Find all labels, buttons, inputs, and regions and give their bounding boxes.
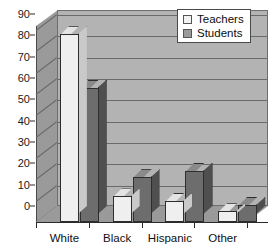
y-axis-tick-label: 10 bbox=[4, 179, 30, 190]
y-axis-tick-mark bbox=[30, 78, 35, 79]
bar-side bbox=[78, 26, 88, 214]
y-axis-tick-label: 50 bbox=[4, 94, 30, 105]
bar-black-teachers bbox=[113, 196, 132, 222]
legend-item-students: Students bbox=[183, 27, 244, 39]
y-axis-tick-mark bbox=[30, 120, 35, 121]
y-axis-tick-label: 70 bbox=[4, 51, 30, 62]
y-axis-tick-label: 60 bbox=[4, 73, 30, 84]
bar-face bbox=[218, 211, 237, 222]
y-axis-tick-label: 20 bbox=[4, 158, 30, 169]
legend-swatch-teachers-icon bbox=[183, 15, 192, 24]
x-axis-tick-label: Hispanic bbox=[148, 232, 192, 244]
y-axis-tick-mark bbox=[30, 35, 35, 36]
y-axis-tick-label: 40 bbox=[4, 115, 30, 126]
bar-hispanic-teachers bbox=[165, 201, 184, 222]
y-axis-tick-mark bbox=[30, 142, 35, 143]
y-axis: 0102030405060708090 bbox=[0, 0, 30, 249]
legend-item-teachers: Teachers bbox=[183, 13, 244, 25]
bar-white-teachers bbox=[60, 34, 79, 222]
bar-face bbox=[113, 196, 132, 222]
x-axis-tick-label: Black bbox=[103, 232, 131, 244]
bar-chart: 0102030405060708090 WhiteBlackHispanicOt… bbox=[0, 0, 272, 249]
bar-side bbox=[98, 80, 108, 214]
bar-face bbox=[165, 201, 184, 222]
x-axis-tick-label: Other bbox=[208, 232, 237, 244]
x-axis: WhiteBlackHispanicOther bbox=[0, 226, 272, 248]
y-axis-tick-mark bbox=[30, 163, 35, 164]
y-axis-tick-mark bbox=[30, 56, 35, 57]
legend-label: Teachers bbox=[197, 13, 244, 25]
y-axis-tick-mark bbox=[30, 184, 35, 185]
x-axis-line bbox=[36, 222, 268, 223]
y-axis-tick-label: 90 bbox=[4, 9, 30, 20]
left-wall-edge bbox=[36, 26, 37, 222]
legend-label: Students bbox=[197, 27, 242, 39]
legend-swatch-students-icon bbox=[183, 29, 192, 38]
y-axis-tick-label: 80 bbox=[4, 30, 30, 41]
bar-side bbox=[203, 163, 213, 214]
y-axis-tick-mark bbox=[30, 206, 35, 207]
y-axis-tick-label: 0 bbox=[4, 201, 30, 212]
y-axis-tick-mark bbox=[30, 14, 35, 15]
bar-face bbox=[60, 34, 79, 222]
x-axis-tick-label: White bbox=[50, 232, 79, 244]
legend: TeachersStudents bbox=[177, 9, 251, 43]
y-axis-tick-mark bbox=[30, 99, 35, 100]
y-axis-tick-label: 30 bbox=[4, 137, 30, 148]
bar-other-teachers bbox=[218, 211, 237, 222]
gridline bbox=[58, 58, 267, 59]
